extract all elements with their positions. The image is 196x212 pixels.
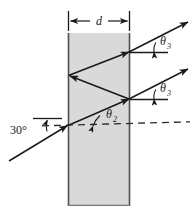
exit-angle-lower-label: θ [160,81,166,95]
exit-angle-lower-subscript: 3 [166,89,171,98]
exit-lower-angle-arc [154,90,156,100]
exit-ray-upper [129,22,188,52]
exit-ray-lower [129,69,188,99]
refraction-angle-subscript: 2 [113,115,117,124]
slab-body [68,33,130,206]
refraction-angle-label: θ [106,107,112,121]
thickness-label: d [96,14,103,28]
exit-angle-upper-label: θ [160,34,166,48]
optics-ray-diagram: d 30° θ 2 [0,0,196,212]
incident-angle-label: 30° [10,123,27,137]
exit-upper-angle-arc [154,43,156,53]
exit-angle-upper-subscript: 3 [166,42,171,51]
